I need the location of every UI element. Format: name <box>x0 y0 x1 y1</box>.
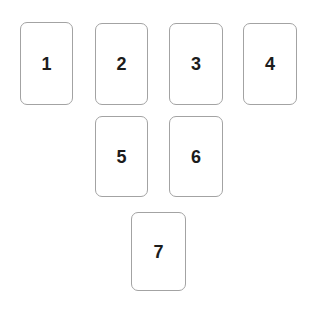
card-5[interactable]: 5 <box>95 116 148 197</box>
card-label: 2 <box>116 55 126 73</box>
card-label: 5 <box>116 148 126 166</box>
card-2[interactable]: 2 <box>95 23 148 105</box>
card-7[interactable]: 7 <box>131 212 186 291</box>
card-label: 4 <box>265 55 275 73</box>
card-6[interactable]: 6 <box>169 116 223 197</box>
card-board: 1 2 3 4 5 6 7 <box>0 0 314 312</box>
card-label: 7 <box>153 243 163 261</box>
card-label: 6 <box>191 148 201 166</box>
card-label: 3 <box>191 55 201 73</box>
card-4[interactable]: 4 <box>243 23 297 105</box>
card-label: 1 <box>41 55 51 73</box>
card-1[interactable]: 1 <box>20 22 73 105</box>
card-3[interactable]: 3 <box>169 23 223 105</box>
